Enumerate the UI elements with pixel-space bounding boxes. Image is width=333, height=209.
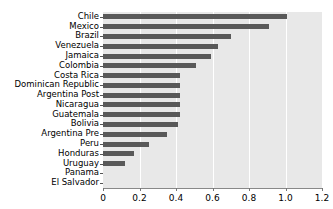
bar	[103, 63, 196, 68]
y-axis-tick	[100, 27, 103, 28]
y-axis-tick	[100, 164, 103, 165]
bar	[103, 112, 180, 117]
y-axis-tick-label: Bolivia	[0, 119, 99, 128]
bar	[103, 83, 180, 88]
y-axis-tick-label: Peru	[0, 139, 99, 148]
bar	[103, 151, 134, 156]
y-axis-tick	[100, 66, 103, 67]
x-axis-tick-label: 0	[100, 193, 106, 203]
x-axis-tick-label: 1.2	[315, 193, 329, 203]
x-axis-tick-label: 0.8	[242, 193, 256, 203]
y-axis-tick	[100, 115, 103, 116]
x-axis-tick	[176, 188, 177, 191]
y-axis-tick	[100, 144, 103, 145]
y-axis-tick-label: Argentina Pre	[0, 129, 99, 138]
y-axis-tick	[100, 56, 103, 57]
y-axis-tick	[100, 183, 103, 184]
y-axis-tick-label: Panama	[0, 168, 99, 177]
y-axis-tick-label: Nicaragua	[0, 100, 99, 109]
plot-area	[103, 12, 322, 188]
x-axis-tick	[322, 188, 323, 191]
y-axis-tick-label: Guatemala	[0, 110, 99, 119]
x-axis-tick	[140, 188, 141, 191]
x-axis-tick	[249, 188, 250, 191]
x-axis-tick-label: 0.2	[132, 193, 146, 203]
bar	[103, 132, 167, 137]
x-axis-tick	[103, 188, 104, 191]
y-axis-tick-label: El Salvador	[0, 178, 99, 187]
y-axis-tick-label: Uruguay	[0, 159, 99, 168]
y-axis-tick	[100, 154, 103, 155]
x-axis-tick-label: 0.6	[205, 193, 219, 203]
y-axis-tick-label: Costa Rica	[0, 71, 99, 80]
y-axis-tick	[100, 76, 103, 77]
y-axis-tick-label: Brazil	[0, 31, 99, 40]
y-axis-tick	[100, 105, 103, 106]
y-axis-tick	[100, 173, 103, 174]
y-axis-tick	[100, 124, 103, 125]
bars	[103, 12, 322, 188]
y-axis-tick	[100, 95, 103, 96]
bar-chart: ChileMexicoBrazilVenezuelaJamaicaColombi…	[0, 0, 333, 209]
bar	[103, 44, 218, 49]
bar	[103, 93, 180, 98]
x-axis-tick-label: 0.4	[169, 193, 183, 203]
y-axis-tick	[100, 17, 103, 18]
y-axis-tick-label: Honduras	[0, 149, 99, 158]
y-axis-tick-label: Argentina Post	[0, 90, 99, 99]
y-axis-tick	[100, 134, 103, 135]
bar	[103, 122, 178, 127]
x-axis-tick	[286, 188, 287, 191]
y-axis-tick-label: Venezuela	[0, 41, 99, 50]
y-axis-tick-label: Dominican Republic	[0, 80, 99, 89]
y-axis-tick-label: Chile	[0, 12, 99, 21]
y-axis-tick-label: Mexico	[0, 22, 99, 31]
bar	[103, 142, 149, 147]
x-axis-tick-label: 1.0	[278, 193, 292, 203]
y-axis-tick	[100, 36, 103, 37]
y-axis-tick-label: Colombia	[0, 61, 99, 70]
bar	[103, 14, 287, 19]
y-axis-tick	[100, 85, 103, 86]
bar	[103, 73, 180, 78]
y-axis-tick-label: Jamaica	[0, 51, 99, 60]
bar	[103, 34, 231, 39]
bar	[103, 161, 125, 166]
y-axis-tick	[100, 46, 103, 47]
bar	[103, 54, 211, 59]
x-axis-tick	[213, 188, 214, 191]
bar	[103, 102, 180, 107]
bar	[103, 24, 269, 29]
y-axis-labels: ChileMexicoBrazilVenezuelaJamaicaColombi…	[0, 12, 99, 188]
